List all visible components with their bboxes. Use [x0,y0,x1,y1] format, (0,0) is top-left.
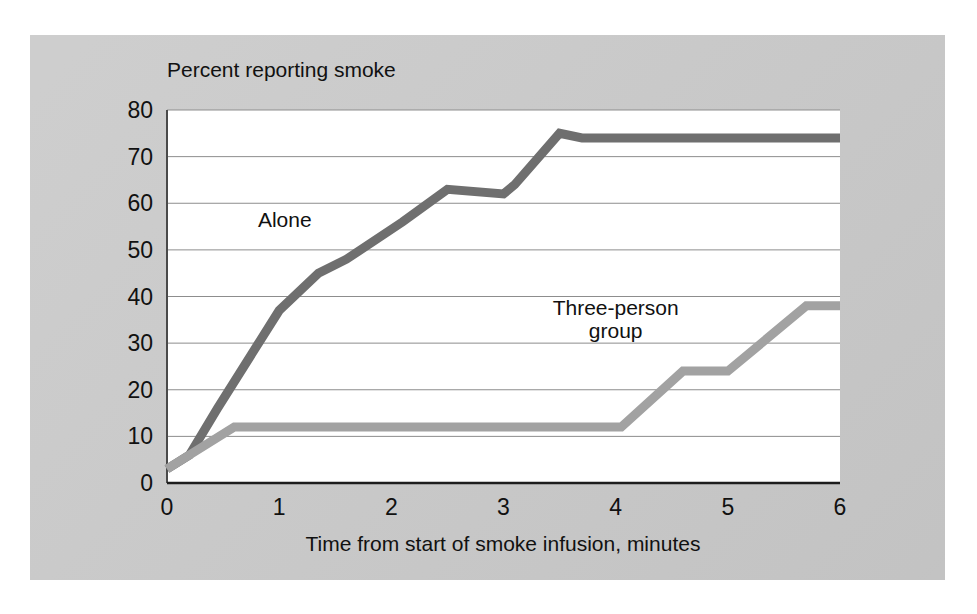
x-axis-title: Time from start of smoke infusion, minut… [306,532,701,555]
y-tick-label: 40 [127,284,153,310]
y-tick-label: 0 [140,470,153,496]
x-tick-label: 0 [161,494,174,520]
x-tick-label: 2 [385,494,398,520]
figure-root: 01020304050607080 0123456 AloneThree-per… [0,0,977,614]
y-tick-label: 60 [127,190,153,216]
y-tick-label: 70 [127,144,153,170]
line-chart: 01020304050607080 0123456 AloneThree-per… [30,35,945,580]
chart-groups: 01020304050607080 0123456 AloneThree-per… [127,58,846,555]
y-tick-label: 10 [127,423,153,449]
x-axis-tick-labels: 0123456 [161,494,847,520]
x-tick-label: 1 [273,494,286,520]
y-tick-label: 30 [127,330,153,356]
chart-panel: 01020304050607080 0123456 AloneThree-per… [30,35,945,580]
x-tick-label: 5 [721,494,734,520]
x-tick-label: 3 [497,494,510,520]
y-axis-tick-labels: 01020304050607080 [127,97,153,496]
y-tick-label: 50 [127,237,153,263]
y-tick-label: 80 [127,97,153,123]
y-tick-label: 20 [127,377,153,403]
series-annotation: Three-person [553,296,679,319]
plot-area-wrapper: 01020304050607080 0123456 AloneThree-per… [30,35,945,580]
x-tick-label: 6 [834,494,847,520]
series-annotation: group [589,319,643,342]
series-annotation: Alone [258,208,312,231]
y-axis-title: Percent reporting smoke [167,58,396,81]
x-tick-label: 4 [609,494,622,520]
